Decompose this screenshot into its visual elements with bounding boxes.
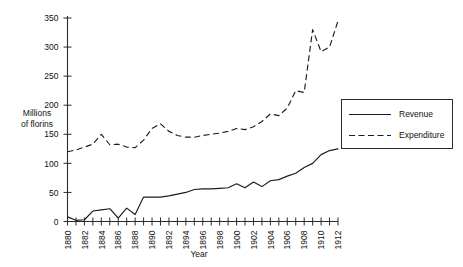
y-tick-label: 50: [49, 188, 59, 198]
y-axis-title: Millions of florins: [8, 108, 66, 129]
x-axis-title: Year: [168, 249, 230, 259]
expenditure-line: [68, 21, 339, 152]
y-tick-label: 0: [54, 217, 59, 227]
x-tick-label: 1906: [282, 230, 292, 249]
y-axis-title-line-2: of florins: [8, 119, 66, 130]
y-tick-label: 300: [44, 42, 58, 52]
x-axis-tick-labels: 1880188218841886188818901892189418961898…: [63, 230, 344, 249]
y-tick-label: 250: [44, 71, 58, 81]
x-tick-label: 1884: [97, 230, 107, 249]
legend-item-expenditure: Expenditure: [349, 129, 444, 141]
legend-label-revenue: Revenue: [399, 109, 433, 119]
x-tick-label: 1890: [147, 230, 157, 249]
x-axis: 1880188218841886188818901892189418961898…: [63, 218, 344, 250]
x-tick-label: 1908: [299, 230, 309, 249]
y-tick-label: 350: [44, 13, 58, 23]
x-tick-label: 1904: [266, 230, 276, 249]
x-tick-label: 1896: [198, 230, 208, 249]
x-tick-label: 1886: [113, 230, 123, 249]
x-tick-label: 1892: [164, 230, 174, 249]
y-tick-label: 150: [44, 129, 58, 139]
legend-swatch-solid-icon: [349, 110, 391, 119]
x-tick-label: 1894: [181, 230, 191, 249]
legend-item-revenue: Revenue: [349, 108, 433, 120]
x-tick-label: 1900: [232, 230, 242, 249]
revenue-line: [68, 149, 339, 221]
x-tick-label: 1912: [333, 230, 343, 249]
x-tick-label: 1902: [249, 230, 259, 249]
y-tick-label: 100: [44, 159, 58, 169]
x-tick-label: 1898: [215, 230, 225, 249]
y-axis-title-line-1: Millions: [8, 108, 66, 119]
x-tick-label: 1910: [316, 230, 326, 249]
legend-swatch-dashed-icon: [349, 131, 391, 140]
x-tick-label: 1888: [130, 230, 140, 249]
revenue-expenditure-line-chart: 050100150200250300350 188018821884188618…: [0, 0, 463, 267]
x-tick-label: 1880: [63, 230, 73, 249]
data-series-group: [68, 21, 339, 220]
x-tick-label: 1882: [80, 230, 90, 249]
chart-legend: Revenue Expenditure: [341, 99, 453, 149]
legend-label-expenditure: Expenditure: [399, 130, 444, 140]
